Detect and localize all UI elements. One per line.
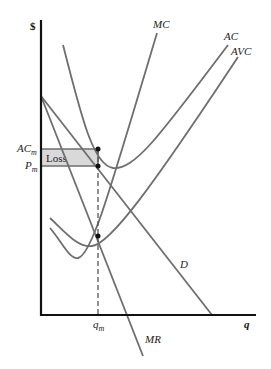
demand-label: D	[179, 258, 188, 270]
p-m-label: Pm	[24, 159, 38, 174]
q-m-label: qm	[93, 318, 105, 333]
mc-mr-intersection-point	[96, 234, 101, 239]
y-axis-label: $	[30, 20, 36, 32]
ac-label: AC	[223, 30, 239, 42]
mr-label: MR	[144, 333, 161, 345]
price-point	[96, 164, 101, 169]
avc-label: AVC	[230, 45, 252, 57]
mc-label: MC	[152, 18, 170, 30]
marginal-revenue-curve	[41, 96, 143, 356]
demand-curve	[41, 96, 212, 315]
ac-point	[96, 147, 101, 152]
x-axis-label: q	[244, 318, 250, 330]
ac-m-label: ACm	[16, 142, 37, 157]
monopoly-loss-diagram: Loss $ q MC AC AVC D MR ACm Pm qm	[0, 0, 271, 369]
